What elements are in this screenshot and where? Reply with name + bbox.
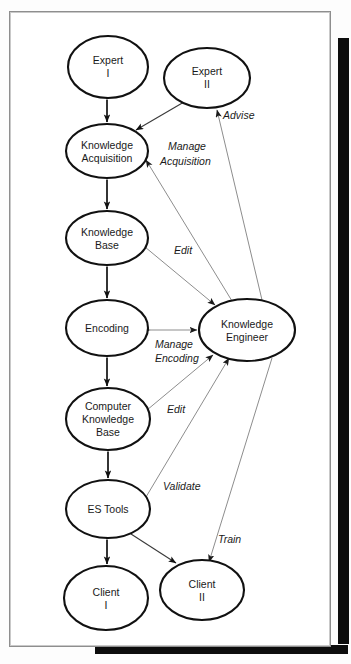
- diagram-canvas: Expert I Expert II Knowledge Acquisition…: [0, 0, 351, 664]
- edge-es-tools-client-ii: [131, 534, 176, 563]
- edge-line: [146, 358, 229, 497]
- edge-label-train: Train: [218, 533, 241, 545]
- node-shape[interactable]: [66, 211, 148, 265]
- edge-label-manage-encoding: Encoding: [155, 352, 199, 364]
- node-expert-i[interactable]: Expert I: [68, 36, 148, 98]
- node-label-line: Encoding: [85, 322, 129, 334]
- node-label-line: Knowledge: [81, 139, 133, 151]
- node-shape[interactable]: [160, 560, 244, 620]
- edge-label-manage-encoding: Manage: [155, 338, 193, 350]
- node-label-line: Base: [95, 239, 119, 251]
- edge-label-advise: Advise: [222, 109, 255, 121]
- node-label-line: Client: [189, 578, 216, 590]
- edge-es-tools-knowledge-engineer: [146, 358, 229, 497]
- edge-line: [209, 358, 272, 562]
- edge-label-validate: Validate: [163, 480, 201, 492]
- node-label-line: Base: [96, 426, 120, 438]
- node-label-line: Client: [93, 586, 120, 598]
- node-es-tools[interactable]: ES Tools: [66, 480, 150, 538]
- node-encoding[interactable]: Encoding: [66, 300, 148, 356]
- edge-label-manage-acquisition: Acquisition: [159, 155, 211, 167]
- edge-knowledge-engineer-client-ii: [209, 358, 272, 562]
- edge-label-manage-acquisition: Manage: [168, 140, 206, 152]
- node-client-ii[interactable]: Client II: [160, 560, 244, 620]
- edge-label-edit-knowledge-base: Edit: [174, 244, 193, 256]
- node-label-line: Expert: [192, 65, 222, 77]
- process-flow-diagram: Expert I Expert II Knowledge Acquisition…: [0, 0, 351, 664]
- edge-knowledge-engineer-knowledge-acquisition: [146, 160, 232, 301]
- node-shape[interactable]: [64, 566, 148, 630]
- edge-line: [146, 160, 232, 301]
- node-label-line: ES Tools: [87, 503, 128, 515]
- node-shape[interactable]: [66, 124, 148, 178]
- node-label-line: Knowledge: [82, 413, 134, 425]
- node-shape[interactable]: [199, 299, 295, 361]
- node-label-line: I: [105, 599, 108, 611]
- node-knowledge-base[interactable]: Knowledge Base: [66, 211, 148, 265]
- node-label-line: Knowledge: [81, 226, 133, 238]
- node-label-line: Expert: [93, 54, 123, 66]
- edge-line: [131, 534, 176, 563]
- node-label-line: Computer: [85, 400, 132, 412]
- node-label-line: I: [107, 67, 110, 79]
- edge-expert-ii-knowledge-acquisition: [136, 102, 184, 130]
- node-knowledge-acquisition[interactable]: Knowledge Acquisition: [66, 124, 148, 178]
- node-computer-knowledge-base[interactable]: Computer Knowledge Base: [66, 388, 150, 450]
- node-knowledge-engineer[interactable]: Knowledge Engineer: [199, 299, 295, 361]
- node-label-line: Engineer: [226, 331, 269, 343]
- edge-label-edit-computer-knowledge-base: Edit: [167, 403, 186, 415]
- node-expert-ii[interactable]: Expert II: [164, 48, 250, 108]
- node-label-line: II: [199, 591, 205, 603]
- edge-line: [217, 110, 262, 300]
- edge-knowledge-engineer-expert-ii: [217, 110, 262, 300]
- node-label-line: II: [204, 78, 210, 90]
- node-client-i[interactable]: Client I: [64, 566, 148, 630]
- node-label-line: Knowledge: [221, 318, 273, 330]
- edge-line: [136, 102, 184, 130]
- node-label-line: Acquisition: [82, 152, 133, 164]
